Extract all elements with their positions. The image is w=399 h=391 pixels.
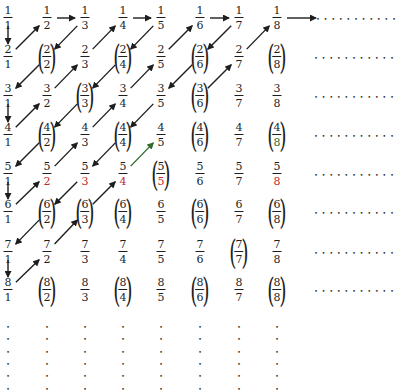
denominator: 5 [158, 98, 165, 109]
left-paren: ( [190, 79, 197, 113]
denominator: 6 [197, 176, 204, 187]
row-ellipsis-dot: • [390, 249, 394, 256]
fraction-7-4: 74 [119, 239, 128, 265]
numerator: 1 [235, 5, 244, 16]
column-ellipsis-dot: • [121, 323, 125, 330]
numerator: 3 [43, 83, 52, 94]
row-ellipsis-dot: • [383, 287, 387, 294]
right-paren: ) [125, 40, 132, 74]
fraction-6-1: 61 [4, 199, 13, 225]
left-paren: ( [37, 195, 44, 229]
denominator: 5 [158, 59, 165, 70]
row-ellipsis-dot: • [354, 15, 358, 22]
row-ellipsis-dot: • [367, 249, 371, 256]
numerator: 7 [43, 239, 52, 250]
fraction-8-5: 85 [157, 277, 166, 303]
row-ellipsis-dot: • [375, 249, 379, 256]
row-ellipsis-dot: • [362, 15, 366, 22]
left-paren: ( [190, 40, 197, 74]
denominator: 2 [44, 254, 51, 265]
left-paren: ( [267, 273, 274, 307]
left-paren: ( [37, 273, 44, 307]
fraction-bar [235, 17, 244, 18]
row-ellipsis-dot: • [337, 171, 341, 178]
fraction-2-6: (26) [187, 40, 213, 74]
row-ellipsis-dot: • [367, 209, 371, 216]
left-paren: ( [113, 40, 120, 74]
row-ellipsis-dot: • [316, 15, 320, 22]
fraction-2-5: 25 [157, 44, 166, 70]
column-ellipsis-dot: • [275, 372, 279, 379]
fraction-6-2: (62) [34, 195, 60, 229]
row-ellipsis-dot: • [314, 132, 318, 139]
left-paren: ( [190, 118, 197, 152]
numerator: 5 [4, 161, 13, 172]
fraction-bar [235, 211, 244, 212]
row-ellipsis-dot: • [352, 249, 356, 256]
numerator: 8 [4, 277, 13, 288]
fraction-7-6: 76 [196, 239, 205, 265]
column-ellipsis-dot: • [6, 347, 10, 354]
right-paren: ) [125, 195, 132, 229]
row-ellipsis-dot: • [360, 209, 364, 216]
right-paren: ) [49, 195, 56, 229]
denominator: 8 [274, 20, 281, 31]
row-ellipsis-dot: • [331, 15, 335, 22]
numerator: 5 [43, 161, 52, 172]
row-ellipsis-dot: • [322, 209, 326, 216]
fraction-5-1: 51 [4, 161, 13, 187]
fraction-bar [235, 95, 244, 96]
fraction-bar [119, 173, 128, 174]
fraction-5-8: 58 [273, 161, 282, 187]
left-paren: ( [75, 79, 82, 113]
denominator: 8 [274, 176, 281, 187]
right-paren: ) [202, 40, 209, 74]
fraction-6-5: 65 [157, 199, 166, 225]
fraction-4-7: 47 [235, 122, 244, 148]
row-ellipsis-dot: • [360, 93, 364, 100]
column-ellipsis-dot: • [6, 384, 10, 391]
fraction-4-1: 41 [4, 122, 13, 148]
denominator: 7 [236, 59, 243, 70]
right-paren: ) [202, 273, 209, 307]
column-ellipsis-dot: • [45, 323, 49, 330]
fraction-bar [235, 134, 244, 135]
column-ellipsis-dot: • [275, 347, 279, 354]
row-ellipsis-dot: • [345, 249, 349, 256]
right-paren: ) [125, 273, 132, 307]
row-ellipsis-dot: • [375, 287, 379, 294]
numerator: 3 [235, 83, 244, 94]
row-ellipsis-dot: • [390, 287, 394, 294]
right-paren: ) [49, 273, 56, 307]
row-ellipsis-dot: • [385, 15, 389, 22]
numerator: 5 [81, 161, 90, 172]
numerator: 3 [119, 83, 128, 94]
numerator: 2 [235, 44, 244, 55]
row-ellipsis-dot: • [375, 93, 379, 100]
fraction-2-2: (22) [34, 40, 60, 74]
numerator: 4 [4, 122, 13, 133]
fraction-bar [119, 95, 128, 96]
row-ellipsis-dot: • [383, 93, 387, 100]
column-ellipsis-dot: • [237, 359, 241, 366]
fraction-5-3: 53 [81, 161, 90, 187]
column-ellipsis-dot: • [237, 335, 241, 342]
left-paren: ( [267, 195, 274, 229]
numerator: 2 [157, 44, 166, 55]
row-ellipsis-dot: • [322, 171, 326, 178]
row-ellipsis-dot: • [314, 249, 318, 256]
fraction-bar [81, 56, 90, 57]
fraction-1-1: 11 [4, 5, 13, 31]
column-ellipsis-dot: • [159, 323, 163, 330]
column-ellipsis-dot: • [45, 384, 49, 391]
row-ellipsis-dot: • [329, 54, 333, 61]
fraction-bar [196, 17, 205, 18]
row-ellipsis-dot: • [329, 93, 333, 100]
left-paren: ( [37, 118, 44, 152]
row-ellipsis-dot: • [390, 93, 394, 100]
fraction-1-8: 18 [273, 5, 282, 31]
denominator: 7 [236, 98, 243, 109]
row-ellipsis-dot: • [390, 171, 394, 178]
numerator: 7 [4, 239, 13, 250]
row-ellipsis-dot: • [375, 132, 379, 139]
